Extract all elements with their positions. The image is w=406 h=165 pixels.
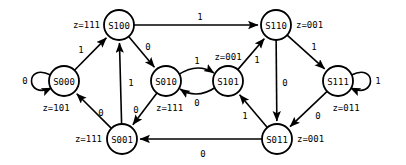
transition-s111-to-s011-input-label: 0 [315,111,320,121]
transition-s010-to-s101-input-label: 1 [194,56,199,66]
state-output-s101: z=001 [214,52,241,62]
state-machine-diagram: S000S100S010S101S110S111S001S011 0110101… [0,0,406,165]
transitions-layer [31,25,370,139]
transition-s110-to-s111 [287,35,325,69]
transition-s111-to-s011 [290,91,327,126]
state-label-s110: S110 [265,21,287,31]
state-label-s001: S001 [111,135,133,145]
state-label-s011: S011 [266,135,288,145]
state-node-s001[interactable]: S001 [107,124,137,154]
transition-s101-to-s010-input-label: 0 [194,98,199,108]
state-label-s111: S111 [327,77,349,87]
state-node-s101[interactable]: S101 [213,66,243,96]
transition-s001-to-s000-input-label: 0 [98,108,103,118]
transition-s110-to-s011-input-label: 0 [282,78,287,88]
states-layer: S000S100S010S101S110S111S001S011 [49,10,353,154]
transition-s000-to-s000-input-label: 0 [22,76,27,86]
transition-s001-to-s100-input-label: 1 [128,78,133,88]
state-output-s100: z=111 [73,20,100,30]
state-node-s111[interactable]: S111 [323,66,353,96]
transition-s101-to-s010 [180,87,216,94]
state-label-s100: S100 [108,21,130,31]
transition-s001-to-s100 [119,43,121,124]
transition-s100-to-s010-input-label: 0 [145,42,150,52]
state-label-s101: S101 [217,77,239,87]
state-output-s000: z=101 [42,103,69,113]
transition-s010-to-s001-input-label: 0 [133,105,138,115]
transition-s110-to-s111-input-label: 1 [311,42,316,52]
state-node-s000[interactable]: S000 [49,66,79,96]
transition-s101-to-s110-input-label: 1 [254,55,259,65]
fsm-canvas: S000S100S010S101S110S111S001S011 0110101… [0,0,406,165]
state-output-s011: z=001 [297,134,324,144]
transition-s101-to-s110 [238,39,265,70]
state-output-s110: z=001 [296,20,323,30]
transition-s111-to-s111-input-label: 1 [375,76,380,86]
transition-s000-to-s100-input-label: 1 [78,45,83,55]
state-output-s010: z=111 [156,103,183,113]
state-output-s111: z=011 [332,103,359,113]
state-node-s100[interactable]: S100 [104,10,134,40]
transition-s011-to-s101-input-label: 1 [242,111,247,121]
transition-s100-to-s110-input-label: 1 [197,12,202,22]
state-node-s011[interactable]: S011 [262,124,292,154]
transition-s110-to-s011 [276,40,277,121]
transition-s001-to-s000 [77,94,112,129]
state-label-s010: S010 [155,77,177,87]
state-output-s001: z=111 [75,134,102,144]
state-label-s000: S000 [53,77,75,87]
state-node-s110[interactable]: S110 [261,10,291,40]
transition-s011-to-s001-input-label: 0 [200,149,205,159]
transition-s010-to-s101 [178,68,214,75]
state-node-s010[interactable]: S010 [151,66,181,96]
